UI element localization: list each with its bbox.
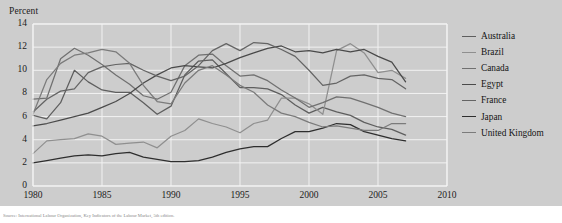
y-tick-label: 14 (5, 18, 27, 28)
series-line-egypt (33, 46, 406, 126)
series-line-united-kingdom (33, 49, 406, 130)
y-tick-label: 0 (5, 180, 27, 190)
chart-legend: AustraliaBrazilCanadaEgyptFranceJapanUni… (462, 28, 560, 141)
legend-label: Australia (481, 31, 515, 41)
x-tick-label: 1980 (13, 190, 53, 200)
legend-item-brazil[interactable]: Brazil (462, 44, 560, 60)
x-tick-label: 2000 (289, 190, 329, 200)
data-series-group (33, 43, 406, 163)
x-tick-label: 2010 (427, 190, 467, 200)
legend-item-canada[interactable]: Canada (462, 60, 560, 76)
legend-label: Canada (481, 63, 509, 73)
series-line-japan (33, 124, 406, 163)
legend-line-swatch (462, 52, 476, 53)
legend-line-swatch (462, 100, 476, 101)
chart-figure: Percent 02468101214 19801985199019952000… (0, 0, 562, 223)
legend-line-swatch (462, 132, 476, 133)
y-tick-label: 12 (5, 41, 27, 51)
legend-label: France (481, 95, 506, 105)
legend-label: Egypt (481, 79, 503, 89)
legend-line-swatch (462, 36, 476, 37)
x-tick-label: 1995 (220, 190, 260, 200)
legend-item-united-kingdom[interactable]: United Kingdom (462, 125, 560, 141)
y-tick-label: 4 (5, 134, 27, 144)
y-tick-label: 10 (5, 64, 27, 74)
legend-label: Japan (481, 112, 502, 122)
x-tick-label: 2005 (358, 190, 398, 200)
legend-item-egypt[interactable]: Egypt (462, 76, 560, 92)
legend-line-swatch (462, 84, 476, 85)
chart-panel: Percent 02468101214 19801985199019952000… (0, 0, 562, 206)
legend-label: United Kingdom (481, 128, 544, 138)
legend-label: Brazil (481, 47, 504, 57)
legend-item-france[interactable]: France (462, 92, 560, 108)
x-tick-label: 1985 (82, 190, 122, 200)
gridlines (33, 24, 447, 186)
x-tick-label: 1990 (151, 190, 191, 200)
legend-line-swatch (462, 68, 476, 69)
legend-item-australia[interactable]: Australia (462, 28, 560, 44)
source-note: Source: International Labour Organizatio… (3, 213, 174, 218)
y-tick-label: 6 (5, 111, 27, 121)
y-tick-label: 8 (5, 87, 27, 97)
legend-line-swatch (462, 116, 476, 117)
y-tick-label: 2 (5, 157, 27, 167)
legend-item-japan[interactable]: Japan (462, 108, 560, 124)
